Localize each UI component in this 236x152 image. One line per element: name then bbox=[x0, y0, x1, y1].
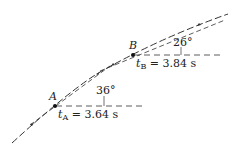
trajectory-diagram: A B 36° 26° tA = 3.64 s tB = 3.84 s bbox=[0, 0, 236, 152]
arrow-icon bbox=[111, 63, 115, 66]
point-b bbox=[131, 53, 135, 57]
label-a: A bbox=[48, 90, 57, 103]
arrow-icon bbox=[197, 23, 201, 26]
arrow-icon bbox=[96, 72, 100, 75]
time-label-a: tA = 3.64 s bbox=[58, 108, 118, 122]
angle-label-a: 36° bbox=[96, 84, 116, 97]
trajectory-curve bbox=[12, 14, 228, 143]
point-a bbox=[53, 104, 57, 108]
angle-label-b: 26° bbox=[173, 36, 193, 49]
label-b: B bbox=[128, 39, 137, 52]
time-label-b: tB = 3.84 s bbox=[136, 57, 197, 71]
